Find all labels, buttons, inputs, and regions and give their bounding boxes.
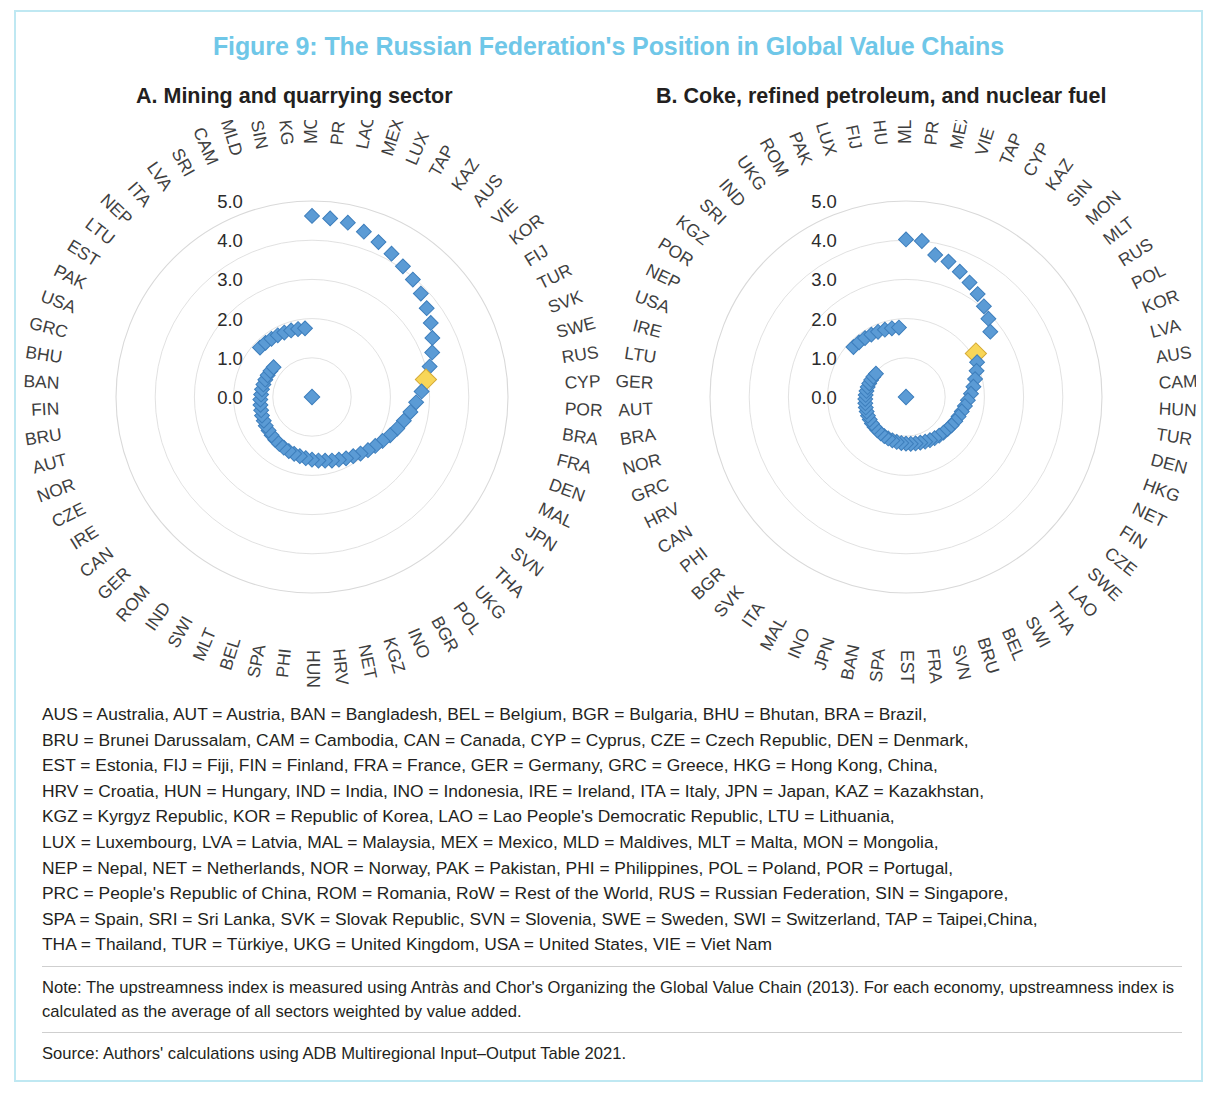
category-label: AUT (618, 398, 654, 420)
data-point[interactable] (425, 345, 440, 360)
category-label: GER (616, 371, 654, 393)
category-label: FRA (923, 648, 946, 685)
radial-axis-tick-label: 2.0 (217, 309, 243, 330)
category-label: NET (354, 643, 381, 682)
abbreviation-line: AUS = Australia, AUT = Austria, BAN = Ba… (42, 702, 1182, 728)
panel-titles: A. Mining and quarrying sector B. Coke, … (16, 84, 1201, 116)
category-label: BRA (561, 424, 600, 449)
category-label: BAN (23, 371, 60, 393)
notes-divider-1 (42, 966, 1182, 967)
radial-axis-tick-label: 5.0 (217, 191, 243, 212)
category-label: BHU (24, 342, 64, 367)
category-label: HUN (1158, 398, 1196, 420)
category-label: TAP (995, 130, 1026, 168)
category-label: DEN (546, 474, 588, 506)
data-point[interactable] (371, 235, 386, 250)
category-label: FRA (555, 449, 594, 477)
category-label: SPA (243, 642, 269, 679)
data-point[interactable] (423, 316, 438, 331)
category-label: JPN (810, 635, 839, 673)
abbreviation-line: KGZ = Kyrgyz Republic, KOR = Republic of… (42, 804, 1182, 830)
category-label: CYP (564, 371, 601, 393)
category-label: HUN (303, 650, 323, 688)
category-label: GRC (27, 313, 70, 342)
category-label: MON (301, 120, 321, 144)
category-label: TUR (1155, 424, 1194, 449)
category-label: USA (38, 286, 79, 317)
abbreviation-line: BRU = Brunei Darussalam, CAM = Cambodia,… (42, 728, 1182, 754)
data-point[interactable] (323, 211, 338, 226)
category-label: SVN (948, 643, 975, 682)
category-label: HKG (274, 120, 298, 146)
radial-axis-tick-label: 4.0 (217, 230, 243, 251)
notes-divider-2 (42, 1032, 1182, 1033)
data-point[interactable] (962, 275, 977, 290)
data-point[interactable] (941, 254, 956, 269)
category-label: KOR (1139, 285, 1182, 317)
data-point[interactable] (340, 215, 355, 230)
data-point[interactable] (395, 259, 410, 274)
panel-b-title: B. Coke, refined petroleum, and nuclear … (656, 84, 1106, 109)
category-label: SIN (247, 120, 272, 151)
radial-axis-tick-label: 1.0 (811, 348, 837, 369)
note-text: Note: The upstreamness index is measured… (42, 976, 1182, 1024)
radial-axis-tick-label: 2.0 (811, 309, 837, 330)
category-label: INO (783, 625, 814, 661)
notes-section: AUS = Australia, AUT = Austria, BAN = Ba… (42, 702, 1182, 1066)
category-label: LUX (812, 120, 841, 158)
data-point[interactable] (419, 301, 434, 316)
category-label: MLD (895, 120, 915, 144)
origin-marker (898, 389, 914, 405)
category-label: BEL (998, 625, 1030, 664)
category-label: BRU (974, 635, 1004, 676)
data-point[interactable] (405, 272, 420, 287)
abbreviation-line: SPA = Spain, SRI = Sri Lanka, SVK = Slov… (42, 907, 1182, 933)
category-label: HRV (329, 648, 353, 687)
category-label: SWE (554, 313, 598, 342)
data-point[interactable] (899, 232, 914, 247)
category-label: MLT (188, 625, 220, 664)
polar-chart-coke-petroleum: 0.01.02.03.04.05.0MLDPRCMEXVIETAPCYPKAZS… (616, 120, 1196, 690)
category-label: SVK (545, 286, 585, 317)
category-label: KGZ (380, 635, 410, 676)
category-label: FIN (31, 398, 60, 419)
radial-axis-tick-label: 3.0 (811, 269, 837, 290)
category-label: VIE (971, 125, 999, 158)
radial-axis-tick-label: 4.0 (811, 230, 837, 251)
category-label: BAN (837, 643, 864, 682)
category-label: MEX (946, 120, 973, 151)
radial-axis-tick-label: 3.0 (217, 269, 243, 290)
data-point[interactable] (952, 264, 967, 279)
category-label: USA (632, 286, 673, 317)
data-point[interactable] (413, 286, 428, 301)
category-label: NOR (621, 449, 664, 478)
category-label: AUT (30, 449, 69, 477)
category-label: MLD (217, 120, 247, 158)
category-label: EST (897, 650, 917, 684)
abbreviation-list: AUS = Australia, AUT = Austria, BAN = Ba… (42, 702, 1182, 958)
radial-axis-tick-label: 0.0 (811, 387, 837, 408)
category-label: PRC (326, 120, 350, 146)
category-label: LAO (352, 120, 379, 151)
category-label: IRE (631, 315, 664, 342)
category-label: BHU (868, 120, 892, 146)
data-point[interactable] (928, 248, 943, 263)
data-point[interactable] (425, 331, 440, 346)
polar-chart-mining-quarrying: 0.01.02.03.04.05.0MONPRCLAOMEXLUXTAPKAZA… (22, 120, 602, 690)
data-point[interactable] (356, 224, 371, 239)
radial-axis-tick-label: 1.0 (217, 348, 243, 369)
category-label: DEN (1149, 449, 1190, 478)
category-label: BEL (216, 635, 245, 673)
category-label: MEX (377, 120, 408, 158)
data-point[interactable] (983, 324, 998, 339)
abbreviation-line: LUX = Luxembourg, LVA = Latvia, MAL = Ma… (42, 830, 1182, 856)
data-point[interactable] (914, 234, 929, 249)
abbreviation-line: PRC = People's Republic of China, ROM = … (42, 881, 1182, 907)
category-label: BRA (619, 424, 658, 449)
abbreviation-line: EST = Estonia, FIJ = Fiji, FIN = Finland… (42, 753, 1182, 779)
category-label: FIJ (521, 241, 552, 271)
category-label: PHI (272, 648, 295, 679)
category-label: CAM (1158, 371, 1196, 393)
data-point[interactable] (305, 208, 320, 223)
category-label: PAK (51, 261, 90, 294)
